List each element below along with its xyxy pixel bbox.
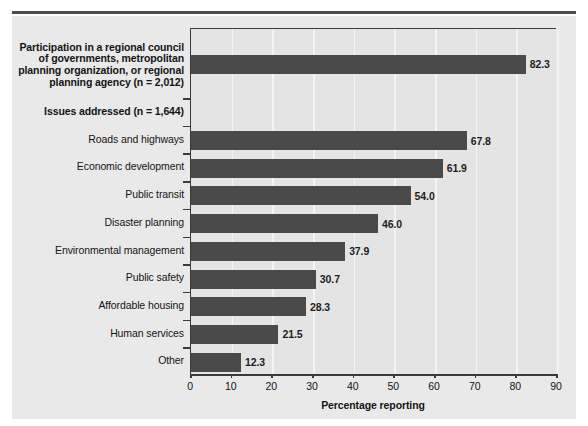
x-tick (231, 374, 233, 378)
x-tick (353, 374, 355, 378)
category-label: Other (158, 355, 184, 367)
bar (191, 186, 411, 205)
x-tick (434, 374, 436, 378)
x-tick-label: 10 (225, 380, 236, 392)
bar (191, 55, 526, 74)
category-tick (183, 347, 190, 349)
x-tick-label: 50 (388, 380, 399, 392)
category-label: Issues addressed (n = 1,644) (44, 106, 184, 118)
x-tick-label: 20 (266, 380, 277, 392)
x-tick-label: 0 (187, 380, 193, 392)
bar-value-label: 46.0 (382, 218, 402, 230)
x-tick-label: 30 (306, 380, 317, 392)
bar (191, 242, 345, 261)
category-label: Environmental management (55, 245, 184, 257)
x-axis-title: Percentage reporting (190, 399, 556, 411)
bar (191, 270, 316, 289)
x-tick (190, 374, 192, 378)
plot-area: 82.367.861.954.046.037.930.728.321.512.3 (190, 28, 556, 375)
category-label: Participation in a regional council of g… (18, 42, 184, 88)
category-tick (183, 153, 190, 155)
x-tick-label: 80 (510, 380, 521, 392)
x-tick (475, 374, 477, 378)
x-axis-line (190, 374, 556, 376)
category-tick (183, 209, 190, 211)
category-label: Public transit (125, 189, 184, 201)
bar-value-label: 28.3 (310, 301, 330, 313)
x-tick-label: 40 (347, 380, 358, 392)
top-rule-divider (12, 11, 576, 14)
bar (191, 214, 378, 233)
x-tick-label: 60 (428, 380, 439, 392)
x-tick-label: 70 (469, 380, 480, 392)
bar-value-label: 37.9 (349, 245, 369, 257)
category-label: Roads and highways (88, 134, 184, 146)
bar (191, 353, 241, 372)
x-tick (271, 374, 273, 378)
category-tick (183, 292, 190, 294)
category-tick (183, 320, 190, 322)
bar-value-label: 30.7 (320, 273, 340, 285)
bar-value-label: 67.8 (471, 135, 491, 147)
category-label: Public safety (126, 272, 184, 284)
category-label: Human services (110, 328, 184, 340)
category-label: Affordable housing (98, 300, 184, 312)
x-tick (515, 374, 517, 378)
bar-value-label: 54.0 (415, 190, 435, 202)
figure-root: 82.367.861.954.046.037.930.728.321.512.3… (0, 0, 588, 426)
bar (191, 297, 306, 316)
category-tick (183, 181, 190, 183)
category-tick (183, 126, 190, 128)
category-tick (183, 264, 190, 266)
bar-value-label: 21.5 (282, 328, 302, 340)
x-tick (312, 374, 314, 378)
x-tick (393, 374, 395, 378)
bar (191, 159, 443, 178)
bar-value-label: 61.9 (447, 162, 467, 174)
bar (191, 131, 467, 150)
gridline-90 (557, 29, 559, 375)
category-tick (183, 98, 190, 100)
bar (191, 325, 278, 344)
category-label: Disaster planning (105, 217, 184, 229)
x-tick (556, 374, 558, 378)
category-label: Economic development (77, 161, 184, 173)
bar-value-label: 12.3 (245, 356, 265, 368)
cut-off-caption (14, 0, 574, 5)
bar-value-label: 82.3 (530, 58, 550, 70)
x-tick-label: 90 (550, 380, 561, 392)
category-tick (183, 237, 190, 239)
bar-series: 82.367.861.954.046.037.930.728.321.512.3 (191, 29, 556, 375)
